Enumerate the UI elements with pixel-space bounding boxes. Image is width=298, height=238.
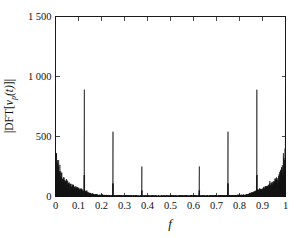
x-tick-label: 0.6 [187, 200, 200, 211]
plot-frame [56, 17, 286, 197]
x-tick-label: 0.8 [233, 200, 246, 211]
x-axis-ticks [56, 17, 286, 197]
x-tick-label: 0.3 [118, 200, 131, 211]
y-axis-title: |DFT[νp(t)]| [3, 79, 18, 133]
x-tick-label: 0.2 [95, 200, 108, 211]
x-axis-tick-labels: 00.10.20.30.40.50.60.70.80.91 [53, 200, 288, 211]
x-tick-label: 0 [53, 200, 58, 211]
x-tick-label: 0.9 [256, 200, 269, 211]
y-tick-label: 0 [46, 191, 51, 202]
x-tick-label: 0.1 [72, 200, 85, 211]
y-tick-label: 500 [36, 131, 52, 142]
x-tick-label: 0.7 [210, 200, 223, 211]
dft-spectrum-figure: 00.10.20.30.40.50.60.70.80.91 05001 0001… [0, 0, 298, 238]
x-axis-title: f [168, 216, 174, 231]
y-axis-ticks [56, 17, 286, 197]
y-axis-tick-labels: 05001 0001 500 [28, 11, 52, 202]
x-tick-label: 1 [283, 200, 288, 211]
x-tick-label: 0.4 [141, 200, 155, 211]
x-tick-label: 0.5 [164, 200, 177, 211]
spectrum-plot: 00.10.20.30.40.50.60.70.80.91 05001 0001… [0, 0, 298, 238]
spectrum-series [56, 85, 286, 197]
y-tick-label: 1 000 [28, 71, 52, 82]
y-tick-label: 1 500 [28, 11, 52, 22]
